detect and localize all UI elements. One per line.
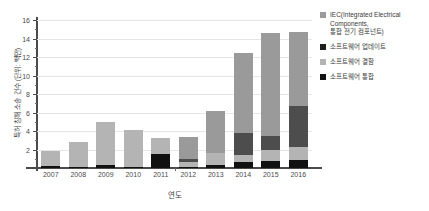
x-tick-label: 2016 — [289, 171, 308, 183]
legend-swatch-icon — [320, 59, 326, 65]
bar-column[interactable] — [206, 20, 225, 168]
legend-swatch-icon — [320, 74, 326, 80]
bar-segment[interactable] — [289, 106, 308, 148]
bar-segment[interactable] — [151, 138, 170, 154]
legend-swatch-icon — [320, 44, 326, 50]
x-tick-label: 2007 — [41, 171, 60, 183]
bar-segment[interactable] — [206, 153, 225, 165]
bar-segment[interactable] — [41, 151, 60, 165]
bar-segment[interactable] — [69, 142, 88, 167]
bar-segment[interactable] — [234, 155, 253, 163]
bar-segment[interactable] — [179, 167, 198, 168]
bar-column[interactable] — [151, 20, 170, 168]
bar-segment[interactable] — [289, 147, 308, 159]
x-axis-title: 연도 — [37, 189, 312, 200]
x-axis-ticks: 2007200820092010201120122013201420152016 — [37, 171, 312, 183]
bar-series-group — [37, 20, 312, 168]
bar-segment[interactable] — [151, 154, 170, 168]
bar-segment[interactable] — [69, 167, 88, 168]
bar-column[interactable] — [124, 20, 143, 168]
bar-segment[interactable] — [96, 122, 115, 165]
bar-segment[interactable] — [179, 137, 198, 158]
bar-segment[interactable] — [289, 32, 308, 106]
y-tick-label: 2 — [8, 146, 30, 153]
x-tick-mark — [175, 168, 176, 171]
x-tick-label: 2014 — [234, 171, 253, 183]
bar-chart: 특허 침해 소송 건수 (단위: 백만) 246810121416 200720… — [0, 0, 429, 211]
bar-segment[interactable] — [96, 165, 115, 168]
x-tick-label: 2013 — [206, 171, 225, 183]
bar-column[interactable] — [179, 20, 198, 168]
y-tick-label: 8 — [8, 91, 30, 98]
plot-area — [37, 20, 312, 168]
y-tick-label: 16 — [8, 17, 30, 24]
x-tick-label: 2009 — [96, 171, 115, 183]
bar-segment[interactable] — [206, 111, 225, 154]
legend-item[interactable]: 소프트웨어 결함 — [320, 58, 428, 67]
y-tick-label: 14 — [8, 35, 30, 42]
legend-item[interactable]: IEC(Integrated Electrical Components, 통합… — [320, 11, 428, 37]
bar-segment[interactable] — [234, 53, 253, 133]
x-tick-label: 2010 — [124, 171, 143, 183]
bar-segment[interactable] — [234, 162, 253, 168]
bar-column[interactable] — [261, 20, 280, 168]
legend-swatch-icon — [320, 12, 326, 18]
y-tick-label: 6 — [8, 109, 30, 116]
y-tick-label: 10 — [8, 72, 30, 79]
bar-column[interactable] — [96, 20, 115, 168]
bar-segment[interactable] — [289, 160, 308, 168]
bar-segment[interactable] — [124, 130, 143, 167]
y-tick-mark — [33, 168, 37, 169]
bar-segment[interactable] — [261, 150, 280, 161]
bar-column[interactable] — [234, 20, 253, 168]
x-tick-label: 2012 — [179, 171, 198, 183]
bar-column[interactable] — [69, 20, 88, 168]
legend-item[interactable]: 소프트웨어 업데이트 — [320, 43, 428, 52]
chart-legend: IEC(Integrated Electrical Components, 통합… — [320, 11, 428, 89]
legend-item[interactable]: 소프트웨어 통합 — [320, 73, 428, 82]
legend-label: IEC(Integrated Electrical Components, 통합… — [330, 11, 400, 37]
bar-segment[interactable] — [261, 136, 280, 150]
bar-segment[interactable] — [234, 133, 253, 155]
bar-column[interactable] — [289, 20, 308, 168]
legend-label: 소프트웨어 결함 — [330, 58, 374, 67]
y-tick-label: 12 — [8, 54, 30, 61]
bar-segment[interactable] — [41, 166, 60, 168]
bar-column[interactable] — [41, 20, 60, 168]
x-tick-label: 2011 — [151, 171, 170, 183]
bar-segment[interactable] — [261, 33, 280, 136]
legend-label: 소프트웨어 업데이트 — [330, 43, 386, 52]
bar-segment[interactable] — [124, 167, 143, 168]
bar-segment[interactable] — [261, 161, 280, 168]
legend-label: 소프트웨어 통합 — [330, 73, 374, 82]
bar-segment[interactable] — [206, 165, 225, 168]
x-tick-label: 2015 — [261, 171, 280, 183]
y-tick-label: 4 — [8, 128, 30, 135]
x-tick-label: 2008 — [69, 171, 88, 183]
